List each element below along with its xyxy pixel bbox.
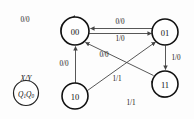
transition-10-to-00: 0/0 [59, 47, 75, 84]
fsm-svg: 0/0 0/0 1/0 1/0 1/1 0/0 0/ [0, 0, 194, 119]
state-node-00[interactable]: 00 [61, 17, 89, 45]
transition-01-to-11-label: 1/0 [171, 54, 181, 62]
state-node-01[interactable]: 01 [152, 19, 178, 45]
transition-10-to-01: 1/1 [88, 42, 156, 91]
state-node-10-label: 10 [71, 92, 80, 102]
transition-01-to-11: 1/0 [166, 46, 181, 70]
state-diagram-canvas: 0/0 0/0 1/0 1/0 1/1 0/0 0/ [0, 0, 194, 119]
transition-10-to-01-path [88, 42, 156, 91]
state-node-00-label: 00 [71, 27, 80, 37]
transition-11-to-00-label: 0/0 [99, 51, 109, 59]
transition-00-to-01: 1/0 [89, 34, 151, 44]
state-node-01-label: 01 [161, 28, 170, 38]
transition-00-to-01-label: 1/0 [115, 35, 125, 43]
transition-01-to-00: 0/0 [91, 18, 153, 29]
legend-q-low-subscript: 0 [31, 93, 34, 99]
transition-00-to-00-label: 0/0 [20, 16, 30, 24]
transition-11-to-11-label: 1/1 [126, 99, 136, 107]
state-node-11-label: 11 [161, 80, 169, 90]
transition-10-to-01-label: 1/1 [112, 75, 122, 83]
transition-11-to-00-path [86, 43, 154, 76]
legend-key: X/Y Q1Q0 [14, 74, 39, 106]
transition-10-to-00-label: 0/0 [59, 60, 69, 68]
transition-11-to-00: 0/0 [86, 43, 154, 76]
state-node-11[interactable]: 11 [152, 71, 178, 97]
state-node-10[interactable]: 10 [62, 83, 88, 109]
transition-01-to-00-label: 0/0 [115, 18, 125, 26]
